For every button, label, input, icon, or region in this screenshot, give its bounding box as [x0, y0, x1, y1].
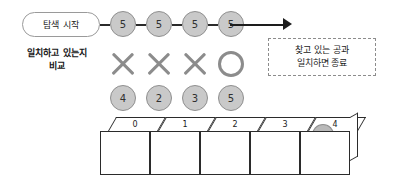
termination-note-box: 찾고 있는 공과 일치하면 종료: [268, 38, 376, 76]
array-value-label: 4: [120, 93, 126, 104]
note-line-1: 찾고 있는 공과: [295, 44, 349, 58]
key-circle-0: 5: [110, 11, 136, 37]
x-mark-icon-2: [181, 50, 209, 78]
array-box-front-face: [300, 131, 350, 175]
compare-label-line-2: 비교: [14, 60, 100, 73]
array-value-label: 2: [156, 93, 162, 104]
array-value-circle-0: 4: [110, 85, 136, 111]
flow-arrow-head-icon: [283, 18, 292, 30]
connector-segment-0: [100, 24, 110, 26]
array-value-label: 5: [228, 93, 234, 104]
o-mark-icon-3: [218, 51, 244, 77]
array-box-index-label: 0: [112, 118, 158, 131]
search-start-label: 탐색 시작: [43, 18, 79, 31]
array-box-index-label: 1: [162, 118, 208, 131]
connector-segment-2: [172, 24, 182, 26]
array-box-3: 3: [250, 131, 300, 175]
array-box-0: 0: [100, 131, 150, 175]
array-box-1: 1: [150, 131, 200, 175]
compare-label-line-1: 일치하고 있는지: [14, 47, 100, 60]
array-box-front-face: [100, 131, 150, 175]
key-circle-2: 5: [182, 11, 208, 37]
array-box-index-label: 3: [262, 118, 308, 131]
note-line-2: 일치하면 종료: [295, 57, 349, 71]
connector-segment-1: [136, 24, 146, 26]
array-box-2: 2: [200, 131, 250, 175]
array-value-label: 3: [192, 93, 198, 104]
array-box-front-face: [250, 131, 300, 175]
array-box-front-face: [150, 131, 200, 175]
array-value-circle-3: 5: [218, 85, 244, 111]
key-circle-label: 5: [156, 19, 162, 30]
array-value-circle-1: 2: [146, 85, 172, 111]
key-circle-1: 5: [146, 11, 172, 37]
array-box-index-label: 2: [212, 118, 258, 131]
key-circle-label: 5: [120, 19, 126, 30]
array-value-circle-2: 3: [182, 85, 208, 111]
compare-label: 일치하고 있는지 비교: [14, 47, 100, 73]
flow-arrow-line: [230, 24, 286, 26]
array-box-4: 4: [300, 131, 350, 175]
array-box-side-face: [350, 112, 358, 161]
x-mark-icon-0: [109, 50, 137, 78]
search-start-pill: 탐색 시작: [22, 12, 100, 37]
array-box-front-face: [200, 131, 250, 175]
x-mark-icon-1: [145, 50, 173, 78]
search-diagram: 탐색 시작 5 5 5 5 일치하고 있는지 비교 찾고 있는 공과 일치하면 …: [0, 0, 398, 181]
key-circle-label: 5: [192, 19, 198, 30]
connector-segment-3: [208, 24, 218, 26]
